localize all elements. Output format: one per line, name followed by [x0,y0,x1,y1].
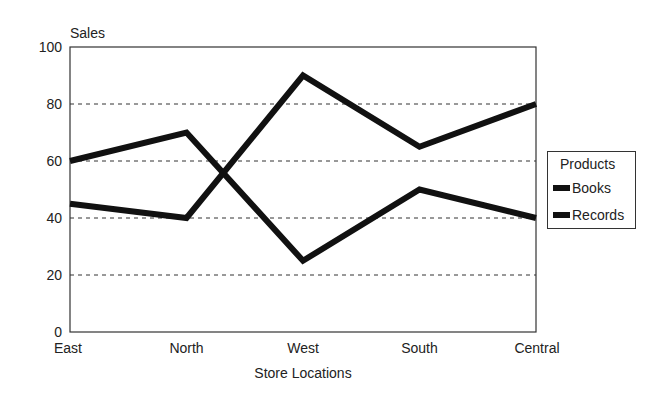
y-tick-label: 20 [46,267,62,283]
y-tick-label: 100 [39,39,63,55]
legend-title: Products [560,156,615,172]
legend-label-records: Records [572,207,624,223]
legend: Products Books Records [547,151,636,229]
legend-swatch-books [553,185,570,191]
y-tick-label: 0 [54,324,62,340]
series-line-books [70,133,536,261]
y-axis-label: Sales [70,25,105,41]
x-tick-label: Central [514,340,559,356]
x-tick-label: East [54,340,82,356]
x-tick-label: South [401,340,438,356]
y-tick-label: 80 [46,96,62,112]
legend-label-books: Books [572,180,611,196]
x-axis-ticks: EastNorthWestSouthCentral [54,340,560,356]
plot-frame [70,47,536,332]
legend-item-records: Records [553,207,624,223]
y-tick-label: 60 [46,153,62,169]
y-axis-ticks: 020406080100 [39,39,63,340]
x-tick-label: West [287,340,319,356]
legend-item-books: Books [553,180,611,196]
series-lines [70,76,536,261]
x-tick-label: North [169,340,203,356]
y-tick-label: 40 [46,210,62,226]
legend-swatch-records [553,212,570,218]
x-axis-label: Store Locations [254,365,351,381]
